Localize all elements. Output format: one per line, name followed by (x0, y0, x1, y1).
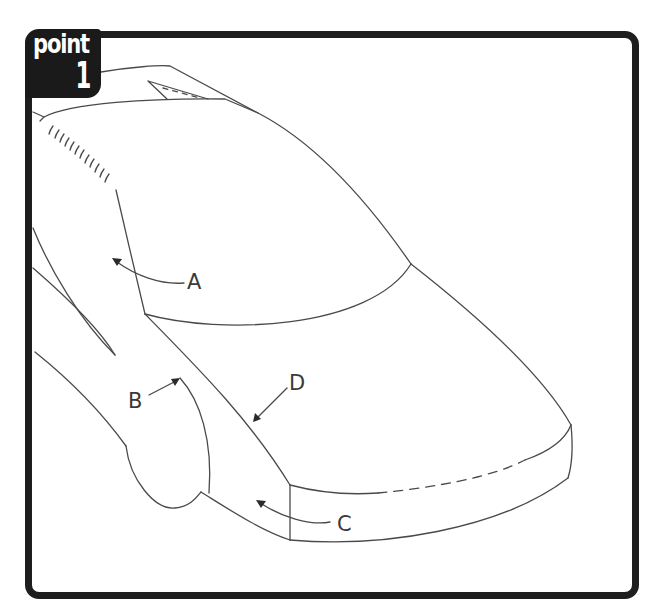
roof-left-corner (33, 112, 44, 121)
bumper-right-edge (568, 425, 572, 478)
callout-arrow-c (256, 500, 330, 523)
bumper-top-right (525, 425, 571, 460)
badge-number: 1 (75, 55, 91, 95)
side-line-upper (33, 228, 115, 355)
fender-crease (145, 314, 290, 485)
bumper-top-solid (290, 485, 378, 494)
windshield-base (145, 264, 411, 325)
lower-sill-line (35, 352, 126, 446)
label-d: D (289, 373, 305, 394)
vent-slits (49, 126, 109, 182)
lower-front-line (201, 492, 290, 540)
label-a: A (187, 272, 201, 293)
spoiler-fin (148, 81, 208, 99)
spoiler-dash (163, 88, 200, 98)
wheel-bulge (126, 446, 201, 508)
bumper-top-dashed (378, 460, 525, 493)
wheel-arch (180, 378, 210, 493)
hood-right-edge (411, 264, 571, 425)
label-b: B (128, 391, 142, 412)
a-pillar-line (116, 190, 145, 314)
bumper-bottom (290, 478, 568, 542)
callout-arrow-a (112, 258, 184, 283)
callout-arrow-d (253, 388, 287, 422)
label-c: C (337, 514, 352, 535)
roof-front-line (44, 99, 411, 264)
callout-arrow-b (149, 378, 180, 395)
roof-top-line (101, 66, 258, 113)
point-badge: point 1 (25, 29, 101, 98)
